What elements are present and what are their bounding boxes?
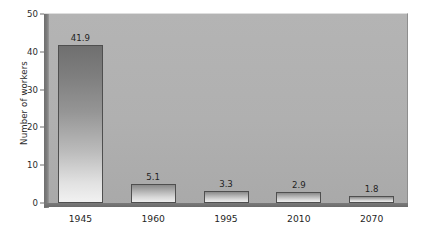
bar-value-label: 5.1 — [146, 172, 160, 182]
x-tick-label: 1945 — [69, 213, 92, 224]
y-axis-ticks: 01020304050 — [0, 0, 38, 244]
bar-value-label: 3.3 — [219, 179, 233, 189]
x-tick-label: 1995 — [214, 213, 237, 224]
bar-value-label: 1.8 — [365, 184, 379, 194]
x-tick-label: 2070 — [360, 213, 383, 224]
bar-value-label: 41.9 — [71, 33, 90, 43]
y-axis-line — [44, 14, 49, 208]
y-tick-label: 40 — [0, 47, 38, 57]
bar-value-label: 2.9 — [292, 180, 306, 190]
x-tick-label: 2010 — [287, 213, 310, 224]
bar — [349, 196, 394, 203]
bar — [131, 184, 176, 203]
y-tick-label: 10 — [0, 160, 38, 170]
y-tick-label: 50 — [0, 9, 38, 19]
bar — [204, 191, 249, 203]
x-tick-label: 1960 — [141, 213, 164, 224]
y-tick-label: 0 — [0, 198, 38, 208]
bar — [58, 45, 103, 203]
bar — [276, 192, 321, 203]
x-axis-line — [44, 203, 408, 207]
y-tick-label: 20 — [0, 122, 38, 132]
bar-chart: Number of workers 01020304050 41.919455.… — [0, 0, 422, 244]
y-tick-label: 30 — [0, 85, 38, 95]
